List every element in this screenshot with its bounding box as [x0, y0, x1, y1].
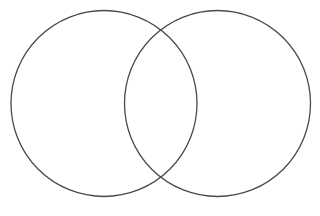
- left-set-circle: [11, 11, 197, 197]
- venn-diagram: [0, 0, 320, 216]
- venn-diagram-canvas: [0, 0, 320, 216]
- right-set-circle: [125, 11, 311, 197]
